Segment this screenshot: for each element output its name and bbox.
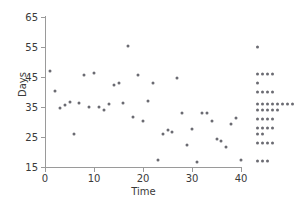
data-point bbox=[210, 120, 213, 123]
dotplot-row bbox=[256, 73, 274, 76]
dotplot-dot bbox=[281, 103, 284, 106]
dotplot-dot bbox=[266, 91, 269, 94]
data-point bbox=[225, 145, 228, 148]
data-point bbox=[142, 119, 145, 122]
y-tick-label: 25 bbox=[25, 132, 38, 143]
plot-area bbox=[45, 17, 241, 167]
data-point bbox=[102, 109, 105, 112]
data-point bbox=[63, 103, 66, 106]
dotplot-row bbox=[256, 142, 274, 145]
data-point bbox=[191, 128, 194, 131]
dotplot-dot bbox=[256, 109, 259, 112]
data-point bbox=[83, 74, 86, 77]
dotplot-dot bbox=[291, 103, 294, 106]
dotplot-dot bbox=[266, 73, 269, 76]
data-point bbox=[107, 103, 110, 106]
marginal-dotplot bbox=[256, 17, 303, 167]
dotplot-dot bbox=[256, 73, 259, 76]
dotplot-dot bbox=[256, 160, 259, 163]
dotplot-dot bbox=[261, 127, 264, 130]
dotplot-row bbox=[256, 160, 269, 163]
data-point bbox=[215, 138, 218, 141]
dotplot-dot bbox=[261, 91, 264, 94]
data-point bbox=[146, 100, 149, 103]
data-point bbox=[58, 106, 61, 109]
data-point bbox=[78, 101, 81, 104]
data-point bbox=[230, 122, 233, 125]
y-tick-label: 45 bbox=[25, 72, 38, 83]
data-point bbox=[137, 74, 140, 77]
dotplot-row bbox=[256, 82, 259, 85]
data-point bbox=[127, 44, 130, 47]
dotplot-dot bbox=[256, 118, 259, 121]
dotplot-dot bbox=[266, 160, 269, 163]
dotplot-dot bbox=[276, 103, 279, 106]
dotplot-dot bbox=[256, 133, 259, 136]
dotplot-dot bbox=[266, 118, 269, 121]
dotplot-dot bbox=[256, 127, 259, 130]
dotplot-row bbox=[256, 109, 279, 112]
dotplot-dot bbox=[256, 82, 259, 85]
dotplot-row bbox=[256, 133, 264, 136]
dotplot-dot bbox=[261, 118, 264, 121]
dotplot-dot bbox=[266, 142, 269, 145]
x-tick-mark bbox=[143, 168, 144, 172]
data-point bbox=[93, 71, 96, 74]
data-point bbox=[156, 158, 159, 161]
x-tick-mark bbox=[192, 168, 193, 172]
data-point bbox=[88, 106, 91, 109]
dotplot-dot bbox=[256, 46, 259, 49]
x-tick-label: 40 bbox=[235, 173, 248, 184]
data-point bbox=[186, 144, 189, 147]
dotplot-dot bbox=[261, 109, 264, 112]
dotplot-dot bbox=[261, 133, 264, 136]
dotplot-dot bbox=[271, 73, 274, 76]
dotplot-dot bbox=[276, 109, 279, 112]
dotplot-dot bbox=[286, 103, 289, 106]
x-axis-title: Time bbox=[45, 186, 242, 197]
dotplot-row bbox=[256, 118, 274, 121]
x-tick-label: 0 bbox=[42, 173, 48, 184]
data-point bbox=[122, 102, 125, 105]
x-tick-mark bbox=[241, 168, 242, 172]
y-tick-label: 55 bbox=[25, 42, 38, 53]
data-point bbox=[220, 139, 223, 142]
dotplot-dot bbox=[271, 142, 274, 145]
data-point bbox=[195, 161, 198, 164]
dotplot-dot bbox=[261, 160, 264, 163]
dotplot-row bbox=[256, 91, 274, 94]
dotplot-row bbox=[256, 127, 274, 130]
data-point bbox=[161, 133, 164, 136]
dotplot-row bbox=[256, 46, 259, 49]
data-point bbox=[73, 133, 76, 136]
dotplot-dot bbox=[266, 109, 269, 112]
data-point bbox=[240, 158, 243, 161]
dotplot-dot bbox=[256, 142, 259, 145]
data-point bbox=[112, 84, 115, 87]
data-point bbox=[48, 70, 51, 73]
data-point bbox=[97, 106, 100, 109]
dotplot-dot bbox=[271, 118, 274, 121]
dotplot-dot bbox=[266, 127, 269, 130]
dotplot-dot bbox=[271, 103, 274, 106]
dotplot-dot bbox=[271, 127, 274, 130]
data-point bbox=[117, 82, 120, 85]
data-point bbox=[132, 116, 135, 119]
data-point bbox=[68, 101, 71, 104]
dotplot-dot bbox=[261, 142, 264, 145]
data-point bbox=[181, 112, 184, 115]
data-point bbox=[176, 76, 179, 79]
x-tick-mark bbox=[94, 168, 95, 172]
dotplot-dot bbox=[256, 91, 259, 94]
y-tick-label: 15 bbox=[25, 162, 38, 173]
scatter-chart-figure: Days Time 152535455565 010203040 bbox=[0, 0, 303, 202]
dotplot-dot bbox=[261, 73, 264, 76]
data-point bbox=[166, 128, 169, 131]
x-tick-label: 10 bbox=[88, 173, 101, 184]
dotplot-dot bbox=[271, 109, 274, 112]
dotplot-dot bbox=[266, 103, 269, 106]
y-tick-label: 65 bbox=[25, 12, 38, 23]
x-tick-label: 20 bbox=[137, 173, 150, 184]
x-tick-label: 30 bbox=[186, 173, 199, 184]
x-tick-mark bbox=[45, 168, 46, 172]
